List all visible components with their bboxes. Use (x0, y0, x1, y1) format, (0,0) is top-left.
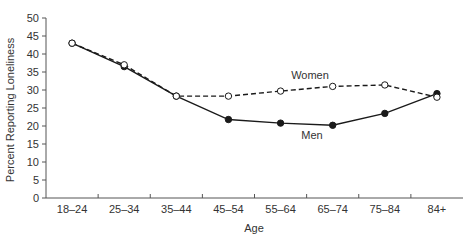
y-tick-label: 20 (27, 120, 39, 132)
data-series (69, 40, 440, 128)
x-tick-label: 45–54 (213, 203, 244, 215)
x-tick-label: 84+ (428, 203, 447, 215)
x-tick-label: 75–84 (370, 203, 401, 215)
y-tick-label: 45 (27, 30, 39, 42)
men-data-point (277, 120, 283, 126)
women-data-point (121, 62, 127, 68)
women-data-point (277, 88, 283, 94)
y-tick-label: 40 (27, 48, 39, 60)
y-tick-label: 10 (27, 156, 39, 168)
women-data-point (329, 83, 335, 89)
women-data-point (225, 93, 231, 99)
y-tick-label: 30 (27, 84, 39, 96)
y-tick-label: 5 (33, 174, 39, 186)
x-tick-label: 18–24 (57, 203, 88, 215)
x-tick-label: 55–64 (265, 203, 296, 215)
x-axis-label: Age (244, 222, 264, 234)
men-data-point (225, 116, 231, 122)
y-tick-label: 0 (33, 192, 39, 204)
men-series-label: Men (301, 129, 322, 141)
x-tick-label: 25–34 (109, 203, 140, 215)
men-data-point (329, 122, 335, 128)
y-tick-label: 25 (27, 102, 39, 114)
y-axis: 05101520253035404550 (27, 12, 46, 204)
x-tick-label: 35–44 (161, 203, 192, 215)
women-data-point (173, 93, 179, 99)
women-data-point (382, 82, 388, 88)
y-tick-label: 15 (27, 138, 39, 150)
y-tick-label: 35 (27, 66, 39, 78)
women-data-point (69, 40, 75, 46)
y-tick-label: 50 (27, 12, 39, 24)
x-tick-label: 65–74 (317, 203, 348, 215)
women-data-point (434, 94, 440, 100)
loneliness-line-chart: 05101520253035404550 18–2425–3435–4445–5… (0, 0, 470, 238)
x-axis: 18–2425–3435–4445–5455–6465–7475–8484+ (46, 194, 463, 215)
women-series-label: Women (291, 69, 329, 81)
men-data-point (382, 110, 388, 116)
y-axis-label: Percent Reporting Loneliness (4, 37, 16, 182)
